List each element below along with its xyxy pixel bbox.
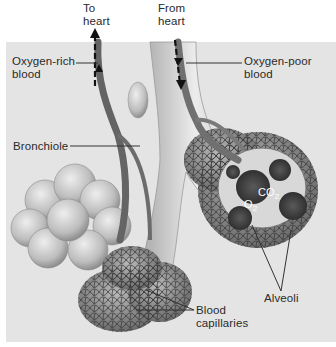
label-line: Blood [196, 304, 248, 317]
label-oxygen-rich-blood: Oxygen-rich blood [12, 55, 75, 81]
label-line: To [83, 2, 110, 15]
label-line: capillaries [196, 317, 248, 330]
diagram-canvas: To heart From heart Oxygen-rich blood Ox… [0, 0, 336, 347]
label-line: From [158, 2, 185, 15]
label-line: blood [244, 68, 312, 81]
label-to-heart: To heart [83, 2, 110, 28]
label-line: heart [158, 15, 185, 28]
co2-subscript: 2 [275, 192, 280, 201]
o2-base: O [244, 198, 253, 210]
label-blood-capillaries: Blood capillaries [196, 304, 248, 330]
o2-subscript: 2 [253, 204, 258, 213]
co2-base: CO [258, 186, 275, 198]
label-line: Oxygen-poor [244, 55, 312, 68]
label-oxygen-poor-blood: Oxygen-poor blood [244, 55, 312, 81]
label-bronchiole: Bronchiole [13, 140, 68, 153]
label-co2: CO2 [258, 186, 279, 200]
label-line: blood [12, 68, 75, 81]
label-line: Oxygen-rich [12, 55, 75, 68]
label-line: heart [83, 15, 110, 28]
label-alveoli: Alveoli [264, 292, 299, 305]
label-o2: O2 [244, 198, 257, 212]
label-from-heart: From heart [158, 2, 185, 28]
